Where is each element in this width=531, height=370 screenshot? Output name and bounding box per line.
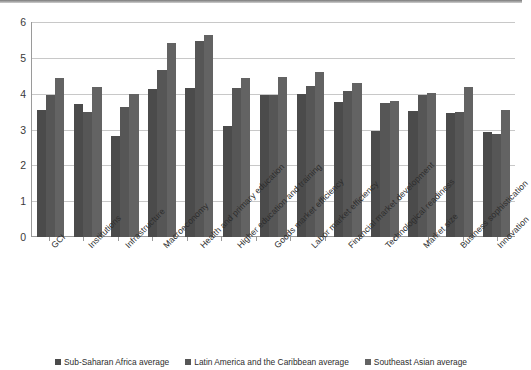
legend-label: Sub-Saharan Africa average [64,357,169,367]
bar [83,112,92,237]
legend-swatch-icon [55,359,61,365]
bar [37,110,46,237]
bar [55,78,64,237]
legend-item[interactable]: Southeast Asian average [365,357,467,367]
legend-item[interactable]: Sub-Saharan Africa average [55,357,169,367]
bar [46,95,55,237]
y-tick-label: 5 [6,52,26,64]
x-axis-labels: GCIInstitutionsInfrastructureMacroeconom… [32,243,515,348]
legend-swatch-icon [185,359,191,365]
bar [501,110,510,237]
bar [74,104,83,237]
top-divider [0,0,522,3]
bar-group [441,22,478,237]
bar [129,94,138,237]
y-tick-label: 1 [6,195,26,207]
y-tick-label: 0 [6,231,26,243]
y-tick-label: 3 [6,124,26,136]
legend-label: Southeast Asian average [374,357,467,367]
y-tick-label: 4 [6,88,26,100]
legend-item[interactable]: Latin America and the Caribbean average [185,357,349,367]
bar [92,87,101,237]
bar [278,77,287,237]
bar-group [32,22,69,237]
bar-group [69,22,106,237]
legend-swatch-icon [365,359,371,365]
bar [390,101,399,237]
bar [120,107,129,237]
bar-group [143,22,180,237]
legend-label: Latin America and the Caribbean average [194,357,349,367]
bar-group [106,22,143,237]
bar [241,78,250,237]
bar [167,43,176,237]
y-tick-label: 6 [6,16,26,28]
bar [352,83,361,237]
bar [464,87,473,237]
y-tick-label: 2 [6,159,26,171]
chart-legend: Sub-Saharan Africa averageLatin America … [0,357,522,367]
